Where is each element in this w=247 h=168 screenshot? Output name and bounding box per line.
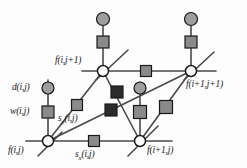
square-marker-right-stem	[134, 106, 147, 119]
label-f-i1j: f(i+1,j)	[147, 146, 173, 156]
node-f-ij1	[98, 66, 109, 77]
circle-marker-top-right	[185, 13, 198, 26]
label-w-ij-args: (i,j)	[16, 106, 29, 116]
label-f-ij: f(i,j)	[8, 146, 23, 156]
label-sx-ij: sx(i,j)	[75, 150, 94, 162]
label-sy-args: (i,j)	[64, 113, 77, 123]
circle-marker-center	[134, 82, 146, 94]
node-f-i1j1	[186, 66, 197, 77]
label-sy-ij: sy(i,j)	[58, 114, 77, 126]
circle-marker-top-left	[97, 13, 110, 26]
label-d-ij-args: (i,j)	[17, 82, 30, 92]
square-marker-sy	[72, 100, 83, 111]
square-marker-center-upper	[111, 86, 123, 98]
grid-stencil-figure: f(i,j) f(i+1,j) f(i,j+1) f(i+1,j+1) d(i,…	[0, 0, 247, 168]
circle-marker-d	[42, 82, 54, 94]
label-f-i1j1: f(i+1,j+1)	[186, 80, 223, 90]
node-f-ij	[43, 136, 54, 147]
edge-square-markers	[42, 36, 197, 147]
square-marker-w	[42, 106, 54, 118]
square-marker-center-lower	[105, 104, 117, 116]
label-w-ij: w(i,j)	[10, 107, 29, 117]
label-d-ij: d(i,j)	[12, 83, 30, 93]
square-marker-diag-right	[160, 101, 173, 114]
data-circle-markers	[42, 13, 198, 95]
square-marker-top-edge	[141, 66, 152, 77]
square-marker-top-right-stem	[185, 36, 197, 48]
label-sx-args: (i,j)	[81, 149, 94, 159]
square-marker-top-left-stem	[97, 36, 109, 48]
square-marker-sx	[89, 136, 100, 147]
node-f-i1j	[135, 136, 146, 147]
label-f-ij1: f(i,j+1)	[55, 56, 81, 66]
